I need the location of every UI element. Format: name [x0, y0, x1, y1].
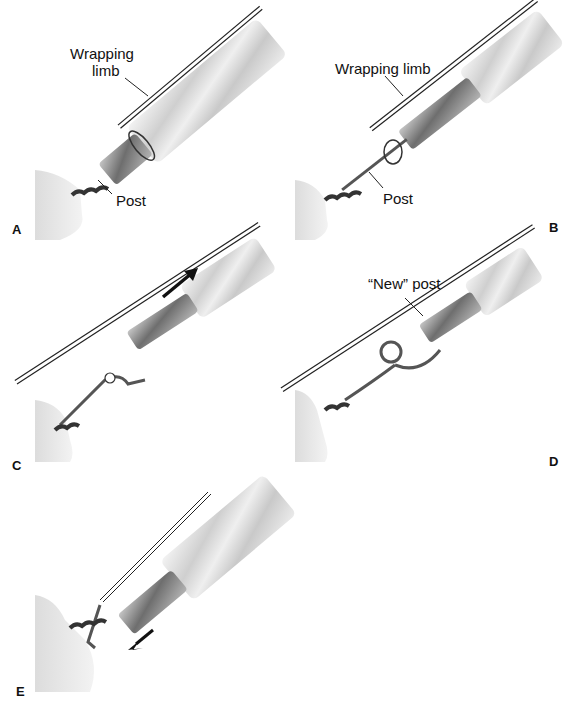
panel-e-illustration [0, 470, 300, 706]
wrapping-limb-label-line2: limb [92, 62, 120, 79]
tissue [295, 180, 328, 240]
leader-line [125, 78, 148, 96]
post-suture [60, 377, 145, 425]
knot [55, 424, 79, 430]
knot [325, 404, 349, 410]
panel-c-illustration [0, 240, 290, 475]
knot-pusher [419, 291, 483, 343]
tissue [35, 170, 83, 240]
knot-pusher [398, 77, 482, 150]
wrapping-limb-edge [17, 226, 260, 384]
new-post-label: “New” post [368, 275, 441, 292]
post-label: Post [116, 192, 146, 209]
panel-d: “New” post D [285, 240, 572, 475]
suture-loop [105, 373, 115, 383]
leader-line [369, 172, 383, 188]
arrow-down-left-icon [128, 630, 153, 650]
cannula [126, 18, 287, 164]
leader-line [385, 76, 403, 96]
panel-b-illustration [285, 0, 572, 240]
wrapping-limb-label: Wrapping limb [335, 60, 431, 77]
panel-c: C [0, 240, 290, 475]
post-suture [342, 139, 407, 189]
wrapping-suture [345, 350, 440, 400]
panel-letter-e: E [16, 684, 25, 699]
tissue [35, 400, 73, 462]
post-suture [88, 605, 100, 648]
post-label: Post [383, 190, 413, 207]
panel-a: Wrapping limb Post A [0, 0, 290, 240]
wrapping-limb-label: Wrapping [70, 45, 134, 62]
panel-letter-d: D [549, 454, 558, 469]
knot-pusher [118, 570, 188, 635]
panel-letter-a: A [12, 222, 21, 237]
panel-letter-b: B [549, 220, 558, 235]
leader-line [405, 298, 423, 316]
panel-e: E [0, 470, 300, 706]
panel-b: Wrapping limb Post B [285, 0, 572, 240]
knot [70, 620, 106, 628]
tissue [35, 595, 94, 692]
tissue [295, 390, 328, 462]
suture-loop [381, 342, 401, 362]
knot [325, 192, 361, 200]
